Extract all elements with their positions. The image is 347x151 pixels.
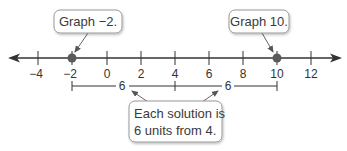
tick-label: 4	[172, 67, 179, 81]
tick-label: 10	[270, 67, 284, 81]
callout-graph-10: Graph 10.	[229, 10, 289, 52]
segment-label-right: 6	[225, 79, 232, 93]
callout-bottom-line1: Each solution is	[134, 106, 226, 121]
number-line-diagram: −4 −2 0 2 4 6 8 10 12 Graph −2. Graph 10…	[0, 0, 347, 151]
tick-label: 8	[240, 67, 247, 81]
tick-label: 12	[304, 67, 318, 81]
callout-left-text: Graph −2.	[59, 14, 117, 29]
point-neg2	[68, 54, 77, 63]
tick-label: 6	[206, 67, 213, 81]
callout-right-text: Graph 10.	[230, 14, 288, 29]
point-10	[273, 54, 282, 63]
tick-label: 2	[138, 67, 145, 81]
tick-labels: −4 −2 0 2 4 6 8 10 12	[29, 67, 318, 81]
distance-bracket	[72, 81, 277, 91]
segment-label-left: 6	[119, 79, 126, 93]
callout-bottom-line2: 6 units from 4.	[134, 123, 216, 138]
tick-label: −4	[29, 67, 43, 81]
callout-each-solution: Each solution is 6 units from 4.	[129, 91, 226, 142]
tick-label: 0	[104, 67, 111, 81]
tick-label: −2	[63, 67, 77, 81]
callout-graph-neg2: Graph −2.	[54, 10, 122, 52]
